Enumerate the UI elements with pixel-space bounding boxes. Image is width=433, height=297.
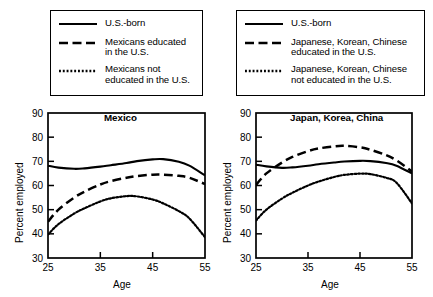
x-tick-label: 45	[354, 262, 366, 273]
plot-frame	[256, 113, 412, 258]
y-tick-label: 50	[32, 204, 44, 215]
y-tick-label: 70	[240, 156, 252, 167]
plot-frame	[48, 113, 205, 258]
y-tick-label: 60	[32, 180, 44, 191]
x-tick-label: 55	[406, 262, 418, 273]
plot-canvas: 3040506070809025354555304050607080902535…	[0, 0, 433, 297]
y-tick-label: 40	[32, 228, 44, 239]
panel-asia: 3040506070809025354555	[240, 108, 418, 273]
x-tick-label: 35	[95, 262, 107, 273]
figure-root: U.S.-born Mexicans educated in the U.S. …	[0, 0, 433, 297]
y-tick-label: 40	[240, 228, 252, 239]
x-tick-label: 35	[302, 262, 314, 273]
x-axis-title-right: Age	[321, 279, 339, 290]
panel-title-mexico: Mexico	[104, 112, 137, 123]
y-tick-label: 80	[32, 132, 44, 143]
y-tick-label: 80	[240, 132, 252, 143]
panel-title-asia: Japan, Korea, China	[290, 112, 383, 123]
y-tick-label: 90	[32, 108, 44, 119]
x-tick-label: 55	[199, 262, 211, 273]
y-axis-title-right: Percent employed	[222, 162, 233, 243]
x-tick-label: 25	[250, 262, 262, 273]
y-axis-title-left: Percent employed	[14, 162, 25, 243]
x-tick-label: 25	[42, 262, 54, 273]
y-tick-label: 90	[240, 108, 252, 119]
panel-mexico: 3040506070809025354555	[32, 108, 211, 273]
x-axis-title-left: Age	[113, 279, 131, 290]
y-tick-label: 70	[32, 156, 44, 167]
y-tick-label: 60	[240, 180, 252, 191]
y-tick-label: 50	[240, 204, 252, 215]
x-tick-label: 45	[147, 262, 159, 273]
